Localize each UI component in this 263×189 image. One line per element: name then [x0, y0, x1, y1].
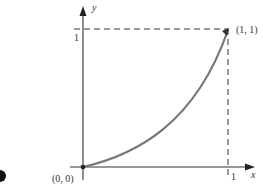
x-tick-label: 1	[231, 172, 236, 182]
y-axis-arrow-icon	[80, 6, 87, 16]
end-point-label: (1, 1)	[236, 25, 258, 35]
origin-point	[81, 165, 86, 170]
curve-figure: y 1 (1, 1) (0, 0) 1 x	[0, 0, 263, 189]
origin-label: (0, 0)	[52, 174, 74, 184]
y-axis-label: y	[92, 3, 96, 13]
x-axis-label: x	[251, 170, 255, 180]
plot-svg	[0, 0, 263, 189]
curve-path	[83, 30, 228, 167]
y-tick-label: 1	[74, 33, 79, 43]
